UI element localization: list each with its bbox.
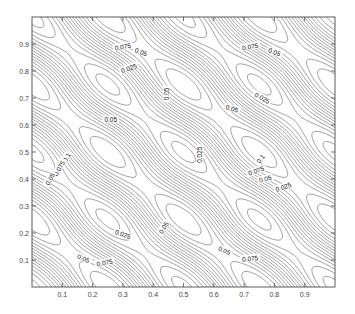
plot-frame xyxy=(32,17,335,287)
y-tick-label: 0.9 xyxy=(19,41,29,48)
contour-line xyxy=(32,17,335,287)
contour-line xyxy=(32,17,335,287)
y-tick-label: 0.6 xyxy=(19,122,29,129)
contour-line xyxy=(32,17,335,287)
y-tick-label: 0.8 xyxy=(19,68,29,75)
x-tick-label: 0.6 xyxy=(209,291,219,298)
contour-label: 0.075 xyxy=(242,254,259,262)
contour-line xyxy=(32,17,335,287)
contour-line xyxy=(32,17,335,287)
x-tick-label: 0.8 xyxy=(270,291,280,298)
y-tick-label: 0.3 xyxy=(19,203,29,210)
y-tick-label: 0.1 xyxy=(19,257,29,264)
contour-lines xyxy=(32,17,335,287)
contour-label: 0.025 xyxy=(120,62,138,74)
x-tick-label: 0.7 xyxy=(239,291,249,298)
x-tick-label: 0.3 xyxy=(118,291,128,298)
contour-chart: 0.0750.050.0250.050.050.0750.050.0250.05… xyxy=(0,0,355,314)
contour-label: 0.05 xyxy=(134,46,149,57)
x-tick-label: 0.9 xyxy=(300,291,310,298)
contour-line xyxy=(32,17,335,287)
y-tick-label: 0.7 xyxy=(19,95,29,102)
contour-label: 0.05 xyxy=(104,116,117,123)
x-tick-label: 0.4 xyxy=(148,291,158,298)
y-tick-label: 0.2 xyxy=(19,230,29,237)
y-tick-label: 0.5 xyxy=(19,149,29,156)
contour-label: 0.05 xyxy=(163,87,170,100)
contour-line xyxy=(32,17,335,287)
contour-line xyxy=(32,17,335,287)
x-tick-label: 0.1 xyxy=(57,291,67,298)
contour-line xyxy=(32,17,335,287)
contour-line xyxy=(32,17,335,287)
contour-line xyxy=(32,17,335,287)
x-tick-label: 0.5 xyxy=(179,291,189,298)
y-tick-label: 0.4 xyxy=(19,176,29,183)
contour-label: 0.075 xyxy=(96,258,114,268)
contour-label: 0.025 xyxy=(254,91,272,105)
contour-label: 0.025 xyxy=(275,181,293,193)
contour-line xyxy=(32,17,335,287)
contour-line xyxy=(32,17,335,287)
contour-line xyxy=(32,17,335,287)
x-tick-label: 0.2 xyxy=(88,291,98,298)
contour-label: 0.075 xyxy=(114,42,132,52)
contour-line xyxy=(32,17,335,287)
contour-label: 0.025 xyxy=(196,146,203,163)
